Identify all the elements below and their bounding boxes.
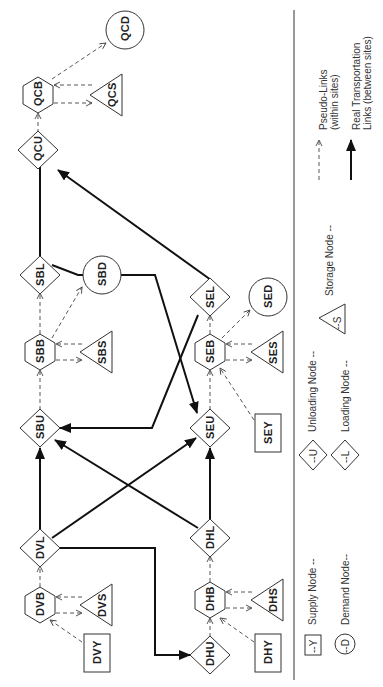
node-label: DHU	[204, 641, 216, 666]
node-sbd: SBD	[83, 256, 121, 294]
node-label: QCB	[32, 81, 44, 106]
node-label: DVL	[34, 536, 46, 559]
node-label: SBD	[96, 262, 108, 286]
legend-unloading-label: Unloading Node --	[307, 351, 318, 432]
node-label: QCU	[32, 136, 44, 161]
plink-sbb-sbd	[52, 287, 82, 338]
link-dvl-dhu	[60, 548, 190, 655]
node-qcd: QCD	[106, 11, 144, 49]
link-sbl-seu	[52, 265, 197, 413]
legend-demand-label: Demand Node--	[340, 554, 351, 625]
legend-pseudo-line2: (within sites)	[329, 74, 340, 130]
node-label: QCS	[106, 82, 118, 107]
link-dvl-seu	[52, 438, 196, 538]
node-qcu: QCU	[18, 131, 58, 169]
legend-supply-label: Supply Node --	[307, 558, 318, 625]
node-sbb: SBB	[25, 334, 55, 370]
node-label: DHB	[204, 586, 216, 611]
node-label: SEY	[262, 421, 274, 444]
real-links	[20, 150, 211, 655]
node-label: SBU	[34, 415, 46, 439]
node-dvy: DVY	[84, 634, 110, 672]
legend-real-line2: Links (between sites)	[362, 36, 373, 130]
legend-supply-symbol: --Y	[308, 639, 319, 653]
node-seu: SEU	[190, 409, 230, 447]
link-dhl-sbu	[55, 440, 198, 528]
node-seb: SEB	[195, 334, 225, 370]
node-qcs: QCS	[90, 74, 122, 116]
node-label: SED	[262, 284, 274, 308]
plink-seb-sed	[222, 310, 250, 338]
node-sbu: SBU	[20, 409, 60, 447]
node-label: DHS	[267, 588, 279, 612]
node-dhy: DHY	[255, 634, 281, 672]
legend-storage-label: Storage Node --	[324, 225, 335, 296]
nodes: QCDQCBQCSQCUSBLSBDSBBSBSSBUSELSEDSEBSESS…	[18, 11, 287, 674]
node-label: SEB	[204, 339, 216, 363]
node-label: SBL	[34, 263, 46, 286]
node-dvl: DVL	[20, 529, 60, 567]
node-sbs: SBS	[80, 331, 112, 373]
node-label: SEL	[204, 286, 216, 308]
node-dhs: DHS	[251, 579, 283, 621]
legend-storage-symbol: --S	[332, 316, 343, 330]
link-sel-sbu	[60, 315, 198, 428]
plink-dhy-dhb	[220, 618, 254, 642]
legend-demand-symbol: --D	[340, 639, 351, 653]
node-dhu: DHU	[190, 636, 230, 674]
plink-sey-seb	[220, 368, 254, 420]
node-label: DHY	[262, 640, 274, 664]
network-diagram: QCDQCBQCSQCUSBLSBDSBBSBSSBUSELSEDSEBSESS…	[0, 0, 383, 687]
legend-loading-label: Loading Node --	[340, 360, 351, 432]
node-dhb: DHB	[195, 582, 225, 618]
node-label: SEU	[204, 415, 216, 439]
node-dvs: DVS	[80, 584, 112, 626]
node-label: DHL	[204, 525, 216, 549]
legend-pseudo-line1: Pseudo-Links	[318, 69, 329, 130]
node-label: DVS	[96, 593, 108, 617]
node-label: SBB	[34, 339, 46, 363]
link-sel-qcu	[58, 170, 211, 280]
node-dvb: DVB	[25, 587, 55, 623]
node-label: DVY	[91, 640, 103, 664]
plink-dvy-dvb	[50, 620, 82, 642]
node-label: SES	[267, 341, 279, 364]
node-sey: SEY	[255, 414, 281, 452]
node-sed: SED	[249, 278, 287, 316]
node-label: SBS	[96, 340, 108, 364]
node-dhl: DHL	[190, 519, 230, 557]
node-label: DVB	[34, 592, 46, 616]
legend: --Y Supply Node -- --D Demand Node-- --U…	[294, 10, 373, 680]
node-label: QCD	[119, 16, 131, 41]
legend-unloading-symbol: --U	[308, 449, 319, 463]
node-qcb: QCB	[23, 77, 53, 113]
legend-loading-symbol: --L	[340, 450, 351, 463]
node-sel: SEL	[190, 278, 230, 316]
node-ses: SES	[251, 331, 283, 373]
plink-qcb-qcd	[52, 43, 106, 79]
legend-real-line1: Real Transportation	[351, 43, 362, 130]
node-sbl: SBL	[20, 256, 60, 294]
